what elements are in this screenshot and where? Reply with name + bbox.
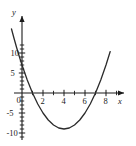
y-tick-label: -10	[7, 128, 18, 138]
x-axis-tick-labels: 2468	[41, 96, 108, 106]
graph-figure: 2468 105-5-10 0 x y	[0, 0, 136, 146]
parabola-curve	[12, 29, 111, 129]
x-tick-label: 6	[83, 96, 87, 106]
y-tick-label: 10	[11, 48, 20, 58]
y-tick-label: 5	[11, 68, 15, 78]
x-tick-label: 2	[41, 96, 45, 106]
x-tick-label: 4	[62, 96, 67, 106]
parabola-plot: 2468 105-5-10 0 x y	[0, 0, 136, 146]
x-axis-arrow-icon	[118, 90, 124, 95]
x-axis-name-label: x	[117, 96, 122, 106]
y-axis-arrow-icon	[19, 16, 24, 22]
x-tick-label: 8	[104, 96, 108, 106]
origin-label: 0	[17, 95, 21, 105]
y-tick-label: -5	[7, 108, 14, 118]
y-axis-name-label: y	[11, 7, 16, 17]
